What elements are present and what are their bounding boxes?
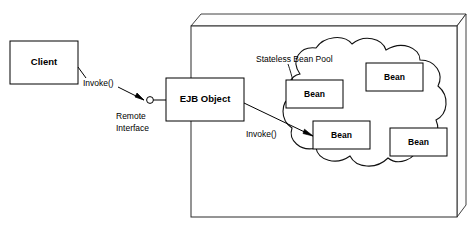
bean-label-2: Bean <box>384 72 405 82</box>
stateless-bean-pool-label: Stateless Bean Pool <box>256 54 333 64</box>
bean-node-3[interactable]: Bean <box>313 121 370 149</box>
remote-interface-label-line1: Remote <box>116 111 146 121</box>
client-node[interactable]: Client <box>10 41 78 84</box>
bean-label-3: Bean <box>331 130 352 140</box>
remote-interface-label-line2: Interface <box>116 123 149 133</box>
invoke-remote-label: Invoke() <box>83 78 114 88</box>
remote-interface-circle[interactable] <box>147 97 154 104</box>
invoke-arrowhead-1 <box>135 93 144 100</box>
invoke-bean-label: Invoke() <box>246 129 277 139</box>
bean-node-2[interactable]: Bean <box>366 63 423 91</box>
container-right-bevel <box>457 14 466 217</box>
bean-node-4[interactable]: Bean <box>390 128 447 156</box>
diagram-canvas: Stateless Bean Pool Bean Bean Bean Bean … <box>0 0 475 226</box>
ejb-object-node[interactable]: EJB Object <box>166 78 244 121</box>
container-top-bevel <box>191 14 466 26</box>
bean-label-1: Bean <box>304 89 325 99</box>
ejb-architecture-diagram: Stateless Bean Pool Bean Bean Bean Bean … <box>0 0 475 226</box>
bean-node-1[interactable]: Bean <box>286 80 343 108</box>
client-leader-line <box>78 67 86 78</box>
bean-label-4: Bean <box>408 137 429 147</box>
ejb-object-label: EJB Object <box>180 93 232 104</box>
client-label: Client <box>31 56 58 67</box>
remote-interface-lollipop[interactable] <box>147 97 166 104</box>
